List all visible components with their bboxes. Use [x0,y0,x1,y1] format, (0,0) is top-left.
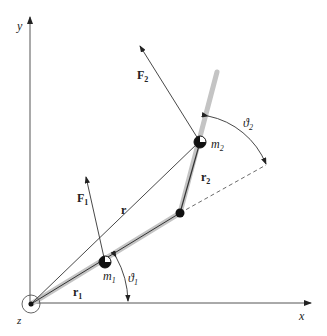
x-axis-label: x [298,309,305,323]
force-f2-label: F2 [137,68,148,84]
double-pendulum-diagram: y x z F2 F1 r r1 r2 m1 m2 ϑ1 ϑ2 [0,0,327,336]
mass-m2 [194,136,206,148]
vector-r1-label: r1 [73,285,82,301]
angle-theta1-label: ϑ1 [128,271,138,287]
mass-m1 [99,256,111,268]
joint [176,209,185,218]
mass-m2-label: m2 [211,137,224,153]
vector-r-label: r [121,203,127,217]
force-f1-arrow [86,177,105,262]
origin-pivot [22,295,40,313]
y-axis-label: y [16,19,23,33]
vector-r2-label: r2 [201,170,210,186]
mass-m1-label: m1 [103,269,116,285]
angle-theta2-label: ϑ2 [243,116,253,132]
force-f2-arrow [140,46,200,142]
z-axis-label: z [16,314,22,326]
angle-theta1-arc [116,257,128,301]
force-f1-label: F1 [77,191,88,207]
